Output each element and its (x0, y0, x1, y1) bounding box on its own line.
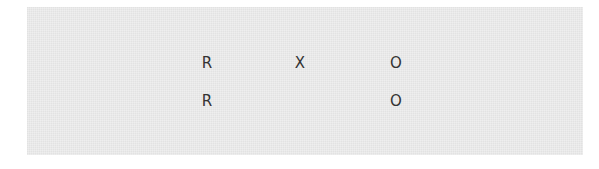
grid-cell-r1-c2: X (295, 56, 305, 71)
grid-cell-r2-c3: O (390, 94, 402, 109)
grid-cell-r1-c3: O (390, 56, 402, 71)
grid-cell-r2-c1: R (202, 94, 212, 109)
grid-cell-r1-c1: R (202, 56, 212, 71)
letter-grid-panel (27, 7, 583, 155)
